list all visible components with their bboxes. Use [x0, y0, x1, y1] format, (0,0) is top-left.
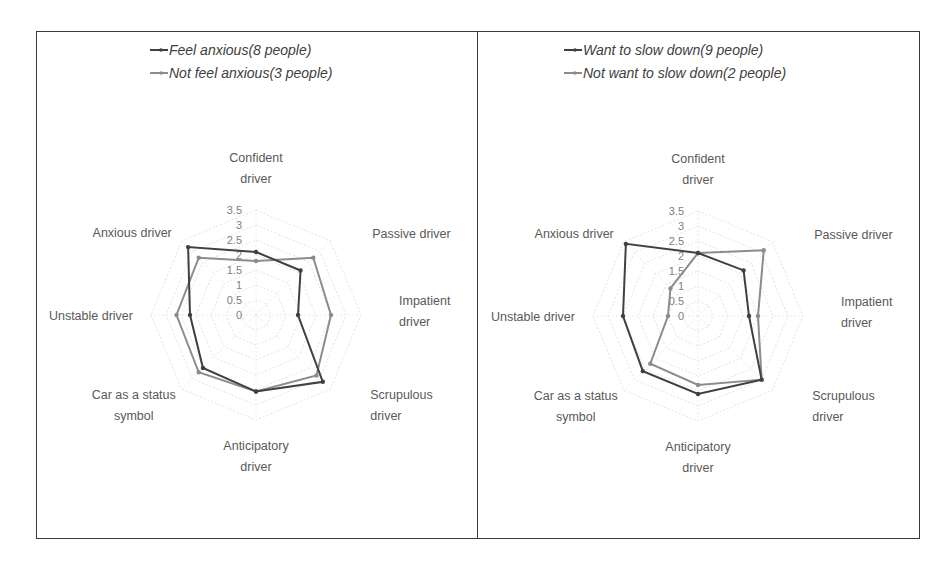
svg-text:2.5: 2.5 — [669, 235, 684, 247]
axis-labels: ConfidentdriverPassive driverImpatientdr… — [491, 152, 893, 475]
data-point — [621, 314, 625, 318]
data-point — [668, 286, 672, 290]
axis-label: Passive driver — [814, 228, 893, 242]
axis-label: Scrupulousdriver — [812, 389, 875, 424]
svg-text:3.5: 3.5 — [669, 205, 684, 217]
data-point — [759, 377, 763, 381]
svg-text:0: 0 — [678, 310, 684, 322]
data-point — [696, 383, 700, 387]
svg-text:3: 3 — [678, 220, 684, 232]
axis-label: Anticipatorydriver — [665, 440, 731, 475]
data-point — [666, 314, 670, 318]
data-point — [641, 369, 645, 373]
data-point — [747, 314, 751, 318]
data-point — [756, 314, 760, 318]
svg-text:1: 1 — [678, 280, 684, 292]
data-point — [696, 251, 700, 255]
axis-label: Anxious driver — [535, 227, 614, 241]
data-point — [762, 248, 766, 252]
data-point — [624, 242, 628, 246]
axis-label: Car as a statussymbol — [534, 389, 618, 424]
data-point — [696, 392, 700, 396]
axis-label: Unstable driver — [491, 310, 575, 324]
data-point — [741, 268, 745, 272]
svg-text:0.5: 0.5 — [669, 295, 684, 307]
axis-label: Confidentdriver — [671, 152, 725, 187]
data-point — [648, 362, 652, 366]
radar-chart-right: 00.511.522.533.5ConfidentdriverPassive d… — [0, 0, 944, 568]
axis-label: Impatientdriver — [841, 295, 893, 330]
